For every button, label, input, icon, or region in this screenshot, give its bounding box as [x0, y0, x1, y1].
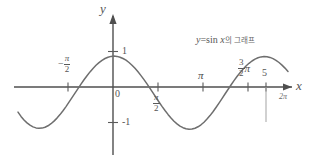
y-tick-label-1: 1 [122, 46, 127, 56]
pi-glyph: π [245, 62, 251, 74]
caption-sin: sin [206, 34, 218, 45]
fraction-denominator: 2 [64, 65, 71, 74]
y-axis-label: y [100, 2, 106, 15]
y-tick-label-minus1: -1 [122, 117, 130, 127]
x-axis [14, 84, 292, 91]
x-tick-label-three-pi-over-2: 32π [238, 58, 250, 78]
x-tick-label-minus-pi-over-2: −π2 [58, 54, 70, 74]
x-tick-label-pi-over-2: π2 [153, 93, 160, 113]
x-tick-label-2pi: 2π [279, 93, 287, 101]
plot-canvas [0, 0, 313, 164]
fraction-pi-over-2: π2 [153, 93, 160, 113]
origin-label: 0 [115, 89, 120, 99]
fraction-denominator: 2 [153, 104, 160, 113]
caption-korean-suffix: 의 그래프 [225, 36, 255, 45]
sine-graph-figure: y x 0 1 -1 −π2 π2 π 32π 5 2π y=sin x의 그래… [0, 0, 313, 164]
x-axis-label: x [296, 79, 302, 92]
y-axis [109, 14, 116, 155]
x-tick-label-pi: π [198, 70, 204, 81]
minus-sign-glyph: − [58, 58, 64, 69]
fraction-pi-over-2: π2 [64, 54, 71, 74]
equation-caption: y=sin x의 그래프 [196, 34, 255, 45]
x-marker-label-5: 5 [262, 68, 267, 78]
